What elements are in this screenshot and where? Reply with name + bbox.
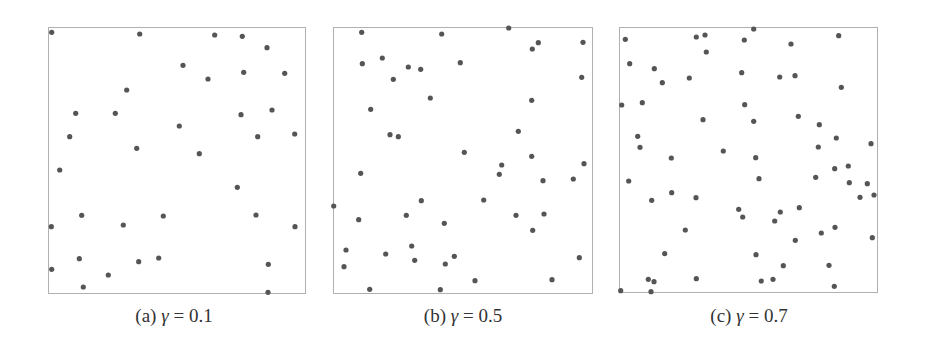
- data-point: [635, 134, 640, 139]
- data-point: [694, 34, 699, 39]
- data-point: [266, 262, 271, 267]
- gamma-value: 0.1: [189, 305, 213, 326]
- data-point: [834, 135, 839, 140]
- data-point: [772, 218, 777, 223]
- data-point: [497, 172, 502, 177]
- data-point: [742, 102, 747, 107]
- data-point: [439, 31, 444, 36]
- data-point: [740, 214, 745, 219]
- data-point: [391, 77, 396, 82]
- data-point: [839, 85, 844, 90]
- data-point: [156, 255, 161, 260]
- data-point: [77, 256, 82, 261]
- data-point: [865, 181, 870, 186]
- data-point: [458, 60, 463, 65]
- data-point: [577, 255, 582, 260]
- data-point: [136, 259, 141, 264]
- data-point: [443, 261, 448, 266]
- data-point: [623, 37, 628, 42]
- panel-b-caption: (b) γ = 0.5: [424, 305, 502, 327]
- panel-b-plot: [331, 25, 592, 293]
- data-point: [693, 195, 698, 200]
- data-point: [269, 107, 274, 112]
- data-point: [832, 284, 837, 289]
- equals-sign: =: [173, 305, 184, 326]
- data-point: [649, 198, 654, 203]
- data-point: [836, 33, 841, 38]
- data-point: [770, 277, 775, 282]
- data-point: [793, 238, 798, 243]
- data-point: [619, 102, 624, 107]
- data-point: [49, 224, 54, 229]
- data-point: [253, 212, 258, 217]
- data-point: [687, 75, 692, 80]
- data-point: [627, 61, 632, 66]
- data-point: [832, 225, 837, 230]
- data-point: [255, 134, 260, 139]
- data-point: [428, 95, 433, 100]
- data-point: [777, 74, 782, 79]
- data-point: [472, 278, 477, 283]
- data-point: [579, 75, 584, 80]
- data-point: [438, 287, 443, 292]
- data-point: [67, 134, 72, 139]
- data-point: [240, 34, 245, 39]
- data-point: [868, 141, 873, 146]
- data-point: [870, 235, 875, 240]
- data-point: [580, 40, 585, 45]
- panel-c-plot: [618, 26, 877, 294]
- data-point: [106, 272, 111, 277]
- data-point: [81, 284, 86, 289]
- data-point: [704, 49, 709, 54]
- data-point: [669, 190, 674, 195]
- data-point: [694, 276, 699, 281]
- panel-a-caption: (a) γ = 0.1: [135, 305, 212, 327]
- data-point: [238, 112, 243, 117]
- data-point: [753, 252, 758, 257]
- data-point: [359, 30, 364, 35]
- plot-frame: [620, 28, 878, 293]
- data-point: [197, 151, 202, 156]
- plot-frame: [49, 28, 306, 294]
- data-point: [49, 30, 54, 35]
- data-point: [640, 100, 645, 105]
- data-point: [721, 148, 726, 153]
- data-point: [792, 73, 797, 78]
- data-point: [846, 163, 851, 168]
- data-point: [516, 129, 521, 134]
- data-point: [788, 41, 793, 46]
- data-point: [530, 46, 535, 51]
- data-point: [781, 263, 786, 268]
- data-point: [161, 213, 166, 218]
- data-point: [646, 277, 651, 282]
- data-point: [529, 98, 534, 103]
- data-point: [499, 162, 504, 167]
- data-point: [796, 114, 801, 119]
- data-point: [759, 278, 764, 283]
- gamma-symbol: γ: [451, 305, 459, 326]
- data-point: [241, 70, 246, 75]
- data-point: [832, 166, 837, 171]
- gamma-value: 0.7: [764, 305, 788, 326]
- data-point: [739, 70, 744, 75]
- data-point: [756, 176, 761, 181]
- data-point: [124, 87, 129, 92]
- plot-frame: [334, 28, 593, 294]
- data-point: [669, 155, 674, 160]
- data-point: [751, 26, 756, 31]
- data-point: [857, 195, 862, 200]
- data-point: [442, 221, 447, 226]
- equals-sign: =: [748, 305, 759, 326]
- data-point: [541, 211, 546, 216]
- data-point: [418, 67, 423, 72]
- data-point: [292, 131, 297, 136]
- data-point: [637, 145, 642, 150]
- data-point: [409, 243, 414, 248]
- data-point: [134, 146, 139, 151]
- data-point: [380, 55, 385, 60]
- data-point: [292, 224, 297, 229]
- data-point: [662, 251, 667, 256]
- data-point: [481, 197, 486, 202]
- data-point: [452, 254, 457, 259]
- data-point: [121, 222, 126, 227]
